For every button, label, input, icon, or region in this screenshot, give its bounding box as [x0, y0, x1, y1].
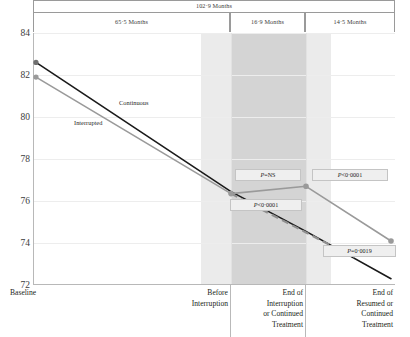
y-tick-78: 78	[2, 155, 30, 165]
x-label-before-interruption-line1: Before	[150, 288, 228, 299]
x-label-end-interruption-line4: Treatment	[232, 320, 303, 331]
pvalue-end-interruption-box: P<0·0001	[312, 169, 388, 181]
pvalue-interruption-box: P<0·0001	[230, 199, 302, 211]
plot-area: Continuous Interrupted P=NS P<0·0001 P<0…	[33, 33, 395, 285]
x-label-end-resumed: End of Resumed or Continued Treatment	[307, 288, 393, 330]
x-label-end-interruption-line1: End of	[232, 288, 303, 299]
pvalue-end-interruption-value: <0·0001	[342, 172, 363, 178]
bracket-total-label: 102·9 Months	[196, 3, 232, 9]
bracket-segment-3: 14·5 Months	[305, 12, 395, 32]
y-tick-84: 84	[2, 29, 30, 39]
y-tick-80: 80	[2, 113, 30, 123]
bracket-segment-1: 65·5 Months	[33, 12, 230, 32]
x-label-end-resumed-line4: Treatment	[307, 320, 393, 331]
x-label-before-interruption: Before Interruption	[150, 288, 228, 309]
x-label-before-interruption-line2: Interruption	[150, 299, 228, 310]
y-tick-76: 76	[2, 197, 30, 207]
point-interrupted-before	[228, 191, 234, 197]
series-line-interrupted	[36, 77, 391, 241]
bracket-segment-3-label: 14·5 Months	[334, 19, 367, 25]
x-label-end-resumed-line3: Continued	[307, 309, 393, 320]
pvalue-resumed-box: P=0·0019	[323, 245, 396, 257]
point-continuous-baseline	[33, 60, 38, 65]
bracket-segment-2: 16·9 Months	[230, 12, 305, 32]
x-label-end-resumed-line2: Resumed or	[307, 299, 393, 310]
point-interrupted-end-resumed	[388, 238, 394, 244]
point-interrupted-baseline	[33, 75, 38, 80]
bracket-segment-1-label: 65·5 Months	[115, 19, 148, 25]
x-axis: Baseline Before Interruption End of Inte…	[0, 285, 410, 337]
pvalue-resumed-value: =0·0019	[351, 248, 372, 254]
pvalue-ns-value: =NS	[264, 172, 275, 178]
series-label-interrupted: Interrupted	[74, 120, 102, 126]
x-sep-1	[230, 285, 231, 337]
bracket-row-total: 102·9 Months	[0, 0, 410, 12]
x-label-baseline: Baseline	[10, 288, 36, 299]
pvalue-interruption-value: <0·0001	[258, 202, 279, 208]
y-tick-74: 74	[2, 239, 30, 249]
series-label-continuous: Continuous	[119, 100, 148, 106]
y-tick-82: 82	[2, 71, 30, 81]
bracket-row-segments: 65·5 Months 16·9 Months 14·5 Months	[0, 12, 410, 32]
chart-figure: 102·9 Months 65·5 Months 16·9 Months 14·…	[0, 0, 410, 337]
x-label-end-resumed-line1: End of	[307, 288, 393, 299]
y-axis: 84 82 80 78 76 74 72	[0, 33, 30, 285]
point-interrupted-end-interruption	[303, 184, 309, 190]
x-label-end-interruption-line2: Interruption	[232, 299, 303, 310]
bracket-total-duration: 102·9 Months	[33, 0, 395, 12]
x-label-end-interruption-line3: or Continued	[232, 309, 303, 320]
x-label-end-interruption: End of Interruption or Continued Treatme…	[232, 288, 303, 330]
x-sep-2	[305, 285, 306, 337]
pvalue-ns-box: P=NS	[235, 169, 301, 181]
bracket-segment-2-label: 16·9 Months	[251, 19, 284, 25]
